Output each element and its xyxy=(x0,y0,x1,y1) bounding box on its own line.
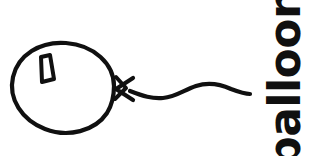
balloon-body-icon xyxy=(12,43,114,133)
balloon-highlight-icon xyxy=(41,55,54,82)
balloon-string-icon xyxy=(130,84,250,98)
balloon-illustration xyxy=(0,0,316,156)
flashcard: balloon xyxy=(0,0,316,156)
